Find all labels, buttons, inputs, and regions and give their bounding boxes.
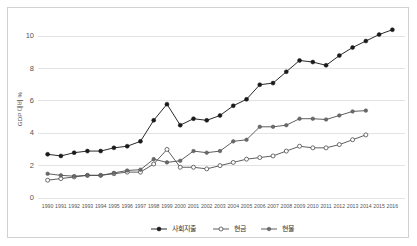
x-tick-label: 2001	[188, 203, 200, 209]
data-point	[271, 125, 275, 129]
data-point	[112, 171, 116, 175]
x-tick-label: 2010	[307, 203, 319, 209]
legend-marker	[219, 227, 223, 231]
data-point	[351, 138, 355, 142]
y-tick-label: 0	[30, 193, 34, 202]
x-axis-ticks: 1990199119921993199419951996199719981999…	[42, 203, 398, 209]
chart-svg: 0246810 19901991199219931994199519961997…	[0, 0, 417, 246]
x-tick-label: 2006	[254, 203, 266, 209]
series-lines	[46, 28, 395, 182]
chart-legend: 사회지출현금현물	[151, 224, 295, 233]
x-tick-label: 2002	[201, 203, 213, 209]
data-point	[218, 149, 222, 153]
x-tick-label: 2007	[267, 203, 279, 209]
data-point	[390, 28, 394, 32]
data-point	[258, 156, 262, 160]
data-point	[324, 63, 328, 67]
data-point	[285, 123, 289, 127]
series-line-0	[48, 30, 393, 156]
data-point	[364, 109, 368, 113]
data-point	[364, 39, 368, 43]
data-point	[59, 154, 63, 158]
data-point	[311, 60, 315, 64]
series-line-1	[48, 135, 366, 180]
x-tick-label: 1997	[135, 203, 147, 209]
data-point	[59, 174, 63, 178]
data-point	[152, 118, 156, 122]
data-point	[112, 146, 116, 150]
data-point	[231, 104, 235, 108]
data-point	[338, 114, 342, 118]
data-point	[191, 117, 195, 121]
data-point	[311, 117, 315, 121]
data-point	[86, 174, 90, 178]
data-point	[271, 154, 275, 158]
data-point	[191, 165, 195, 169]
legend-item-2: 현물	[261, 225, 295, 232]
data-point	[351, 110, 355, 114]
x-tick-label: 1993	[82, 203, 94, 209]
data-point	[178, 159, 182, 163]
data-point	[46, 178, 50, 182]
x-tick-label: 1998	[148, 203, 160, 209]
data-point	[231, 160, 235, 164]
data-point	[46, 172, 50, 176]
data-point	[72, 174, 76, 178]
y-tick-label: 4	[30, 128, 34, 137]
x-tick-label: 2011	[320, 203, 331, 209]
data-point	[324, 146, 328, 150]
data-point	[99, 149, 103, 153]
data-point	[178, 123, 182, 127]
data-point	[178, 165, 182, 169]
data-point	[284, 149, 288, 153]
data-point	[125, 144, 129, 148]
y-tick-label: 6	[30, 96, 34, 105]
data-point	[218, 164, 222, 168]
data-point	[165, 161, 169, 165]
y-axis-ticks: 0246810	[26, 31, 34, 202]
x-tick-label: 2003	[214, 203, 226, 209]
data-point	[72, 151, 76, 155]
data-point	[165, 147, 169, 151]
x-tick-label: 1999	[161, 203, 173, 209]
data-point	[205, 151, 209, 155]
data-point	[377, 33, 381, 37]
y-tick-label: 10	[26, 31, 34, 40]
x-tick-label: 2012	[334, 203, 346, 209]
x-tick-label: 2009	[294, 203, 306, 209]
x-tick-label: 2013	[347, 203, 359, 209]
x-tick-label: 2014	[360, 203, 372, 209]
data-point	[258, 125, 262, 129]
data-point	[139, 168, 143, 172]
x-tick-label: 1994	[95, 203, 107, 209]
legend-item-1: 현금	[213, 225, 247, 232]
data-point	[245, 97, 249, 101]
data-point	[99, 174, 103, 178]
data-point	[46, 152, 50, 156]
data-point	[152, 162, 156, 166]
x-tick-label: 1990	[42, 203, 54, 209]
legend-label: 현물	[282, 225, 295, 232]
data-point	[85, 149, 89, 153]
data-point	[298, 117, 302, 121]
x-tick-label: 1992	[68, 203, 80, 209]
x-tick-label: 2008	[281, 203, 293, 209]
x-tick-label: 2004	[227, 203, 239, 209]
data-point	[218, 113, 222, 117]
y-tick-label: 2	[30, 161, 34, 170]
data-point	[245, 138, 249, 142]
legend-item-0: 사회지출	[151, 224, 197, 233]
data-point	[284, 70, 288, 74]
data-point	[311, 146, 315, 150]
data-point	[324, 118, 328, 122]
legend-label: 사회지출	[172, 224, 197, 233]
data-point	[271, 81, 275, 85]
data-point	[205, 118, 209, 122]
data-point	[231, 140, 235, 144]
data-point	[364, 133, 368, 137]
x-tick-label: 2000	[174, 203, 186, 209]
x-tick-label: 1991	[55, 203, 67, 209]
x-tick-label: 1995	[108, 203, 120, 209]
data-point	[337, 54, 341, 58]
data-point	[298, 144, 302, 148]
